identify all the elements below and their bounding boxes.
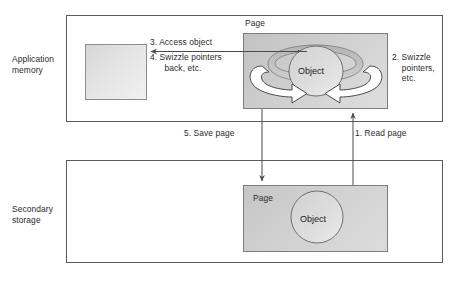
diagram-canvas: Application memory Secondary storage Pag…: [0, 0, 457, 282]
step-1-label: 1. Read page: [355, 128, 407, 139]
step-4-label: 4. Swizzle pointers back, etc.: [150, 52, 222, 73]
diagram-vectors: [0, 0, 457, 282]
step-3-label: 3. Access object: [150, 37, 212, 48]
step-2-label: 2. Swizzle pointers, etc.: [392, 52, 435, 84]
step-5-label: 5. Save page: [184, 128, 235, 139]
object-label-memory: Object: [298, 66, 324, 76]
object-label-storage: Object: [300, 214, 326, 224]
